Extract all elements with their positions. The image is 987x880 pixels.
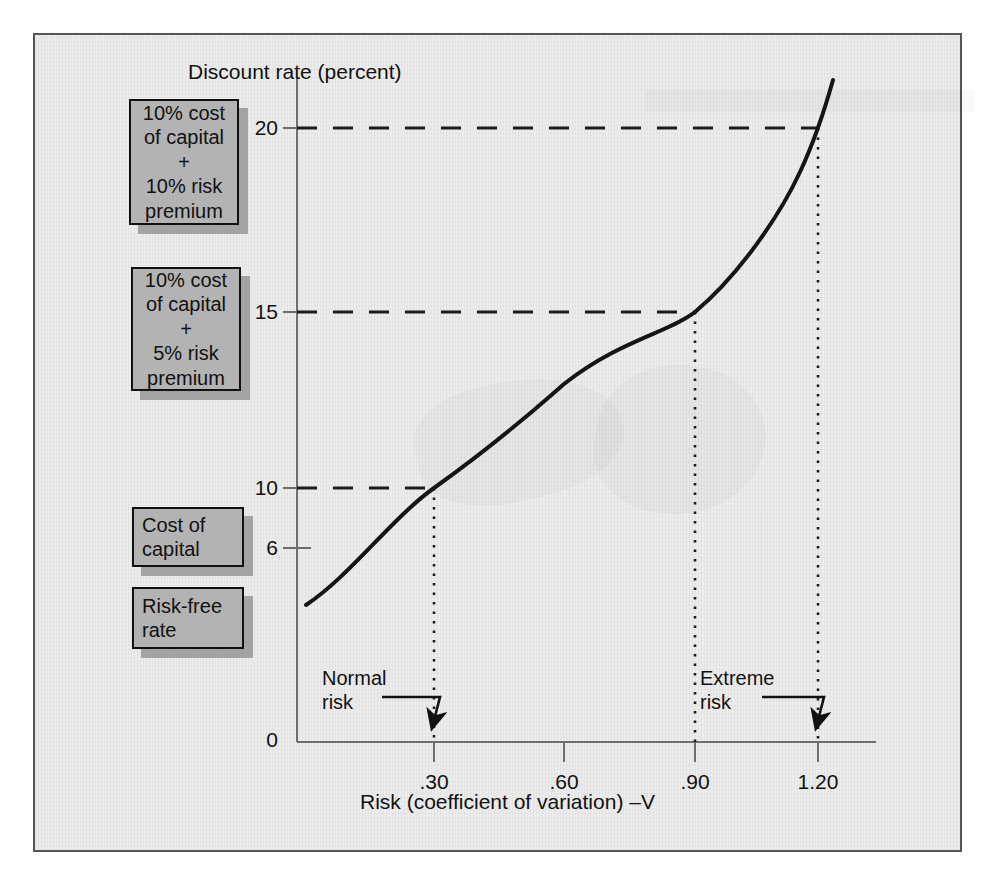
- annotation-normal-risk: Normal risk: [322, 666, 386, 715]
- annotation-normal-risk-line1: Normal: [322, 666, 386, 690]
- callout-line: premium: [147, 366, 225, 390]
- callout-line: of capital: [146, 292, 226, 316]
- annotation-extreme-risk: Extreme risk: [700, 666, 774, 715]
- callout-line: 10% cost: [143, 101, 225, 125]
- x-tick-label-060: .60: [524, 770, 604, 794]
- callout-line: 5% risk: [153, 341, 219, 365]
- callout-risk-free-rate: Risk-free rate: [132, 587, 244, 649]
- paper-watermark-blob: [405, 359, 635, 520]
- x-tick-label-090: .90: [655, 770, 735, 794]
- callout-line: Cost of: [142, 513, 205, 537]
- callout-line: 10% risk: [146, 174, 223, 198]
- callout-line: capital: [142, 537, 200, 561]
- y-axis-title: Discount rate (percent): [188, 60, 402, 85]
- x-tick-label-030: .30: [394, 770, 474, 794]
- paper-watermark-band: [645, 90, 975, 112]
- y-tick-label-10: 10: [232, 476, 278, 500]
- figure-root: Discount rate (percent) Risk (coefficien…: [0, 0, 987, 880]
- callout-line: rate: [142, 618, 176, 642]
- callout-line: +: [180, 317, 192, 341]
- callout-line: 10% cost: [145, 268, 227, 292]
- callout-line: Risk-free: [142, 594, 222, 618]
- callout-line: premium: [145, 199, 223, 223]
- callout-cost-of-capital: Cost of capital: [132, 507, 244, 567]
- annotation-extreme-risk-line2: risk: [700, 690, 774, 714]
- x-tick-label-120: 1.20: [778, 770, 858, 794]
- callout-line: +: [178, 150, 190, 174]
- callout-risk-premium-10: 10% cost of capital + 10% risk premium: [129, 99, 239, 225]
- paper-watermark-blob: [585, 354, 774, 526]
- callout-line: of capital: [144, 125, 224, 149]
- y-tick-label-0: 0: [232, 728, 278, 752]
- annotation-normal-risk-line2: risk: [322, 690, 386, 714]
- annotation-extreme-risk-line1: Extreme: [700, 666, 774, 690]
- callout-risk-premium-5: 10% cost of capital + 5% risk premium: [131, 267, 241, 391]
